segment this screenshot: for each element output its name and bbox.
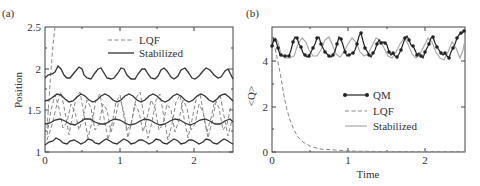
panel-a-ytick-2: 2 bbox=[36, 63, 42, 75]
panel-b-xlabel: Time bbox=[357, 168, 380, 180]
panel-a-ytick-1.5: 1.5 bbox=[27, 104, 41, 116]
panel-b-label: (b) bbox=[246, 7, 259, 20]
panel-b-ylabel: <Q> bbox=[245, 86, 257, 106]
legend-stabilized-label-b: Stabilized bbox=[373, 120, 417, 132]
panel-a-xtick-1: 1 bbox=[117, 154, 123, 166]
panel-b-ytick-0: 0 bbox=[263, 146, 269, 158]
panel-a-ytick-1: 1 bbox=[36, 146, 42, 158]
panel-a-xtick-2: 2 bbox=[191, 154, 197, 166]
panel-b-legend: QM LQF Stabilized bbox=[343, 89, 417, 132]
panel-a-ylabel: Position bbox=[12, 71, 24, 108]
panel-b-ytick-2: 2 bbox=[263, 101, 269, 113]
panel-b-lqf-series bbox=[272, 43, 465, 152]
panel-b-xtick-1: 1 bbox=[345, 154, 351, 166]
legend-stabilized-label: Stabilized bbox=[139, 47, 183, 59]
legend-lqf-label: LQF bbox=[139, 34, 160, 46]
legend-qm-label: QM bbox=[373, 89, 391, 101]
panel-a-stabilized-series bbox=[45, 66, 233, 145]
panel-a-ytick-2.5: 2.5 bbox=[27, 21, 41, 33]
panel-a-label: (a) bbox=[2, 7, 15, 20]
figure: (a) 2.5 2 1.5 1 0 1 2 Position bbox=[0, 0, 480, 186]
panel-a-xtick-0: 0 bbox=[42, 154, 48, 166]
legend-lqf-label-b: LQF bbox=[373, 105, 394, 117]
panel-a-legend: LQF Stabilized bbox=[108, 34, 183, 59]
panel-b: (b) 4 2 0 0 1 2 Time <Q> bbox=[245, 7, 466, 180]
panel-b-xtick-2: 2 bbox=[422, 154, 428, 166]
panel-b-xtick-0: 0 bbox=[269, 154, 275, 166]
panel-b-ytick-4: 4 bbox=[263, 55, 269, 67]
panel-b-qm-series bbox=[270, 29, 466, 60]
panel-a: (a) 2.5 2 1.5 1 0 1 2 Position bbox=[2, 7, 233, 166]
